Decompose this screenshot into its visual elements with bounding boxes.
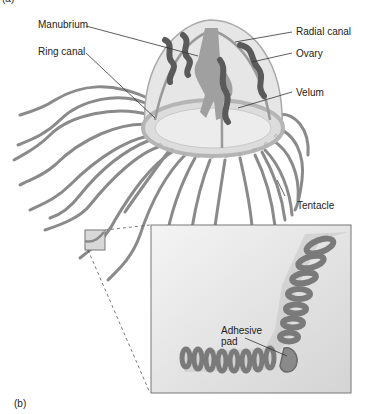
panel-b-label: (b): [14, 398, 26, 409]
label-velum: Velum: [296, 87, 324, 98]
adhesive-pad-shape: [280, 348, 297, 372]
label-radial-canal: Radial canal: [296, 26, 351, 37]
label-adhesive-pad-line1: Adhesive: [221, 325, 262, 336]
label-adhesive-pad: Adhesive pad: [221, 325, 262, 347]
bell: [143, 20, 283, 159]
label-manubrium: Manubrium: [38, 19, 88, 30]
label-tentacle: Tentacle: [297, 200, 334, 211]
label-ring-canal: Ring canal: [38, 46, 85, 57]
label-ovary: Ovary: [296, 48, 323, 59]
panel-a-label: (a): [2, 0, 14, 4]
label-adhesive-pad-line2: pad: [221, 336, 262, 347]
